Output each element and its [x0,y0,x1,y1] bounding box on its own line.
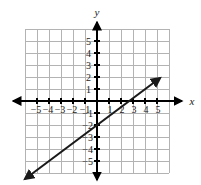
y-tick-label: −3 [82,132,93,143]
y-tick-label: −4 [82,144,93,155]
y-tick-label: 1 [86,84,91,95]
y-tick-label: −5 [82,156,93,167]
x-tick-label: 5 [156,104,161,115]
x-tick-label: 1 [108,104,113,115]
graph-figure: −5 −4 −3 −2 −1 1 2 3 4 5 5 4 3 2 1 −1 −2… [0,0,201,185]
x-tick-label: −5 [31,104,42,115]
y-tick-label: 2 [86,72,91,83]
coordinate-plane: −5 −4 −3 −2 −1 1 2 3 4 5 5 4 3 2 1 −1 −2… [0,0,201,185]
x-tick-label: 4 [144,104,149,115]
y-axis-name: y [94,6,100,18]
x-axis-name: x [189,95,195,107]
y-tick-label: 4 [86,48,91,59]
y-tick-label: −2 [82,120,93,131]
x-tick-label: 3 [132,104,137,115]
x-tick-label: −4 [43,104,54,115]
x-tick-label: 2 [120,104,125,115]
x-tick-label: −2 [67,104,78,115]
x-tick-label: −3 [55,104,66,115]
y-tick-label: 3 [86,60,91,71]
y-tick-label: 5 [86,36,91,47]
y-tick-label: −1 [82,108,93,119]
